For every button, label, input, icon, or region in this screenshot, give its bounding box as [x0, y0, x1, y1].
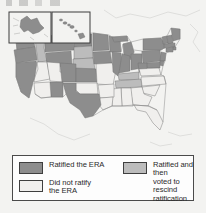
us-map-svg — [0, 6, 206, 158]
hawaii-inset[interactable] — [52, 12, 90, 43]
state-MN[interactable] — [93, 33, 109, 51]
state-PA[interactable] — [142, 50, 161, 63]
legend-label-rescinded: Ratified and then voted to rescind ratif… — [153, 161, 195, 203]
alaska-inset[interactable] — [9, 12, 51, 43]
state-OR[interactable] — [14, 47, 37, 63]
state-NM[interactable] — [50, 82, 63, 97]
state-CO[interactable] — [60, 63, 76, 82]
legend-item-rescinded[interactable]: Ratified and then voted to rescind ratif… — [123, 161, 195, 203]
era-ratification-map-figure: Ratified the ERA Did not ratify the ERA … — [0, 0, 206, 213]
state-KS[interactable] — [76, 68, 97, 82]
map-area — [0, 6, 206, 158]
state-VA[interactable] — [139, 68, 161, 76]
legend-label-ratified: Ratified the ERA — [49, 161, 104, 169]
legend-item-ratified[interactable]: Ratified the ERA — [19, 161, 104, 174]
legend-item-not-ratified[interactable]: Did not ratify the ERA — [19, 179, 91, 196]
state-MD[interactable] — [146, 62, 160, 68]
legend-label-not-ratified: Did not ratify the ERA — [49, 179, 91, 196]
state-AL[interactable] — [121, 88, 133, 106]
state-IA[interactable] — [93, 51, 112, 64]
state-OK[interactable] — [76, 83, 98, 94]
legend-column-left: Ratified the ERA Did not ratify the ERA — [17, 156, 121, 200]
state-AR[interactable] — [98, 84, 114, 98]
state-SD[interactable] — [74, 46, 93, 59]
legend-swatch-not-ratified — [19, 180, 43, 192]
legend-swatch-ratified — [19, 162, 43, 174]
legend-column-right: Ratified and then voted to rescind ratif… — [123, 156, 195, 200]
state-NC[interactable] — [141, 76, 166, 86]
legend-swatch-rescinded — [123, 162, 147, 174]
map-legend: Ratified the ERA Did not ratify the ERA … — [12, 155, 194, 201]
